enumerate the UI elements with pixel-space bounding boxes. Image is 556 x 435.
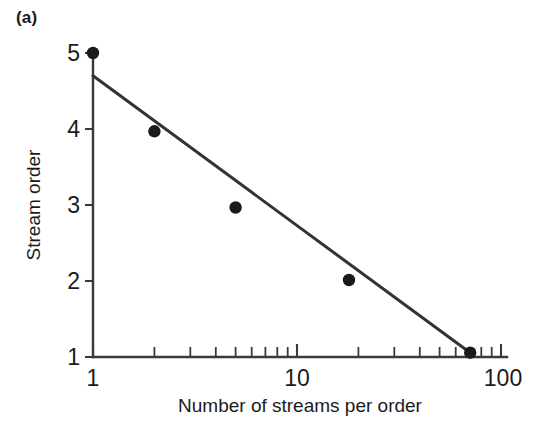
data-point xyxy=(148,125,160,137)
y-tick-label-1: 1 xyxy=(67,344,80,370)
data-point-group xyxy=(87,47,477,359)
x-axis-title: Number of streams per order xyxy=(178,395,423,416)
x-tick-label-10: 10 xyxy=(284,365,310,391)
figure-panel-a: (a) 1 2 3 4 5 xyxy=(0,0,556,435)
y-axis-title: Stream order xyxy=(23,149,44,261)
regression-fit-line xyxy=(93,76,470,353)
x-tick-label-100: 100 xyxy=(484,365,522,391)
y-tick-label-3: 3 xyxy=(67,192,80,218)
data-point xyxy=(87,47,99,59)
y-tick-label-2: 2 xyxy=(67,268,80,294)
data-point xyxy=(343,274,355,286)
y-axis-tick-labels: 1 2 3 4 5 xyxy=(67,40,80,370)
chart-plot-area: 1 2 3 4 5 xyxy=(0,0,556,435)
y-tick-label-4: 4 xyxy=(67,116,80,142)
x-axis-minor-ticks xyxy=(154,347,491,357)
data-point xyxy=(229,201,241,213)
data-point xyxy=(464,347,476,359)
x-axis-tick-labels: 1 10 100 xyxy=(87,365,523,391)
x-tick-label-1: 1 xyxy=(87,365,100,391)
y-tick-label-5: 5 xyxy=(67,40,80,66)
